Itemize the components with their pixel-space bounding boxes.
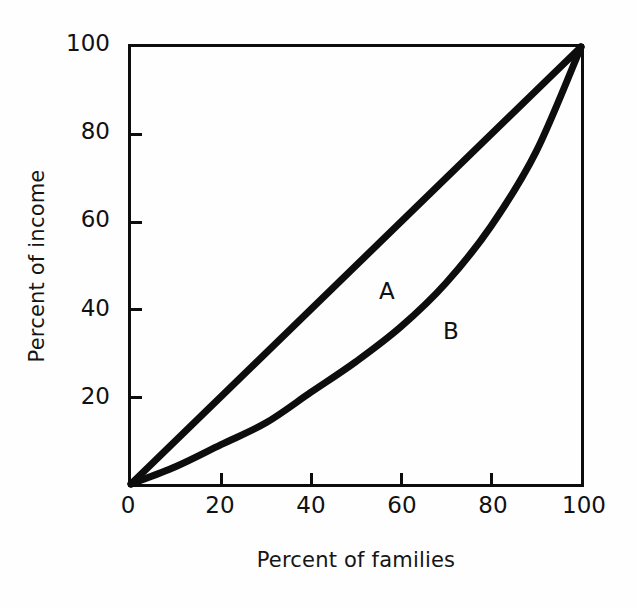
series-paths [131, 47, 581, 484]
plot-area [0, 0, 637, 608]
series-line-a [131, 47, 581, 484]
lorenz-curve-figure: Percent of income Percent of families 10… [0, 0, 637, 608]
series-annotation-b: B [443, 318, 459, 344]
series-annotation-a: A [379, 278, 395, 304]
